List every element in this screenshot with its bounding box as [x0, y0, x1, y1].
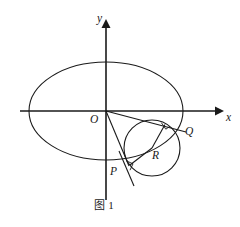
segment-OQ [106, 111, 186, 132]
y-axis-label: y [97, 13, 102, 25]
point-label-R: R [152, 150, 159, 162]
geometry-canvas [0, 0, 240, 227]
x-axis-arrowhead [215, 107, 224, 116]
point-label-Q: Q [185, 126, 193, 138]
x-axis-label: x [226, 112, 231, 124]
point-label-O: O [90, 114, 98, 126]
point-label-P: P [110, 166, 117, 178]
tangent-line-at-P [119, 151, 134, 186]
geometry-figure: O P Q R x y 图 1 [0, 0, 240, 227]
figure-caption: 图 1 [0, 200, 208, 211]
y-axis-arrowhead [102, 19, 111, 28]
